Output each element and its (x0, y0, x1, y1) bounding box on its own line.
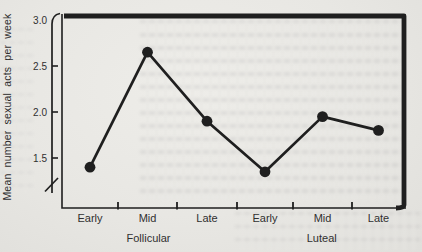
x-category-label: Early (252, 212, 278, 224)
data-line (90, 52, 379, 172)
x-category-label: Mid (314, 212, 332, 224)
plot-box-thick-edges (64, 16, 404, 208)
y-tick-label: 2.5 (33, 61, 47, 72)
x-category-label: Mid (139, 212, 157, 224)
y-tick-label: 2.0 (33, 107, 47, 118)
x-category-label: Early (77, 212, 103, 224)
data-point (202, 116, 213, 127)
x-group-label: Luteal (307, 232, 337, 244)
data-point (85, 162, 96, 173)
x-group-label: Follicular (126, 232, 170, 244)
y-tick-label: 1.5 (33, 153, 47, 164)
data-point (142, 47, 153, 58)
y-tick-label: 3.0 (33, 15, 47, 26)
data-point (373, 125, 384, 136)
y-axis-title: Mean number sexual acts per week (1, 13, 13, 201)
plot-box-thin-edges (62, 14, 406, 208)
data-point (317, 111, 328, 122)
x-category-label: Late (196, 212, 217, 224)
data-point (260, 166, 271, 177)
x-category-label: Late (368, 212, 389, 224)
y-axis-line (52, 14, 60, 194)
chart-svg: 3.02.52.01.5EarlyMidLateEarlyMidLateFoll… (0, 0, 422, 252)
scanned-figure-page: 3.02.52.01.5EarlyMidLateEarlyMidLateFoll… (0, 0, 422, 252)
